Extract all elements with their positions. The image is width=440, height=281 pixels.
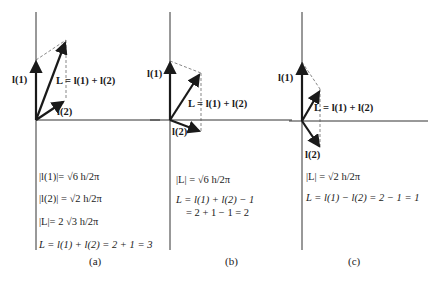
caption-a: (a)	[89, 256, 101, 267]
equation-line: L = l(1) + l(2) = 2 + 1 = 3	[39, 240, 152, 251]
label-l2: l(2)	[57, 107, 72, 118]
caption-c: (c)	[348, 256, 360, 267]
equation-line: |l(2)| = √2 h/2π	[39, 194, 102, 205]
equation-line: = 2 + 1 − 1 = 2	[186, 208, 249, 219]
dashed-guide	[170, 61, 201, 73]
panel-a-graph	[36, 12, 160, 250]
label-l1: l(1)	[147, 69, 162, 80]
label-l1: l(1)	[12, 75, 27, 86]
label-L: L = l(1) + l(2)	[188, 99, 247, 110]
label-l1: l(1)	[278, 73, 293, 84]
equation-line: L = l(1) − l(2) = 2 − 1 = 1	[306, 193, 419, 204]
vector-l2-arrow	[302, 121, 319, 146]
label-l2: l(2)	[305, 150, 320, 161]
dashed-guide	[302, 62, 320, 89]
panel-c-graph	[289, 12, 428, 250]
caption-b: (b)	[225, 256, 238, 267]
equation-line: |L| = √2 h/2π	[306, 172, 360, 183]
label-L: L = l(1) + l(2)	[56, 76, 115, 87]
equation-line: |L|= 2 √3 h/2π	[39, 217, 98, 228]
equation-line: L = l(1) + l(2) − 1	[176, 195, 254, 206]
label-l2: l(2)	[172, 127, 187, 138]
equation-line: |l(1)|= √6 h/2π	[39, 172, 99, 183]
equation-line: |L| = √6 h/2π	[176, 175, 230, 186]
label-L: L = l(1) + l(2)	[314, 103, 373, 114]
